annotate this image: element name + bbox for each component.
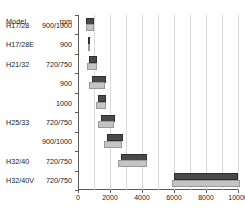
row-label-rpm: 720/750 [0,157,72,166]
gridline [110,15,111,190]
power-range-chart: Model rpm H17/28900/1000H17/28E900H21/32… [0,0,245,211]
x-axis-tick [142,190,143,193]
x-axis-tick-label: 4000 [134,194,150,201]
range-bar-light [104,141,123,148]
x-axis-tick [78,190,79,193]
gridline [222,15,223,190]
range-bar-light [98,121,114,128]
y-axis-tick [75,151,78,152]
x-axis-tick [206,190,207,193]
row-label-rpm: 720/750 [0,60,72,69]
range-bar-light [172,180,239,187]
x-axis-tick [174,190,175,193]
y-axis-tick [75,190,78,191]
y-axis-tick [75,171,78,172]
y-axis-tick [75,112,78,113]
y-axis-tick [75,54,78,55]
y-axis-tick [75,34,78,35]
row-label-rpm: 900 [0,79,72,88]
x-axis-tick-label: 0 [76,194,80,201]
range-bar-light [88,44,90,51]
gridline [206,15,207,190]
y-axis-tick [75,93,78,94]
y-axis-tick [75,73,78,74]
gridline [238,15,239,190]
row-label-rpm: 900/1000 [0,137,72,146]
gridline [174,15,175,190]
x-axis-tick [238,190,239,193]
range-bar-light [89,82,105,89]
gridline [158,15,159,190]
x-axis-tick-label: 8000 [198,194,214,201]
range-bar-light [87,63,97,70]
gridline [94,15,95,190]
x-axis-tick [110,190,111,193]
range-bar-light [96,102,106,109]
row-label-rpm: 900/1000 [0,21,72,30]
row-label-rpm: 900 [0,40,72,49]
x-axis-tick-label: 2000 [102,194,118,201]
x-axis-tick-label: 6000 [166,194,182,201]
row-label-rpm: 720/750 [0,118,72,127]
row-label-rpm: 1000 [0,99,72,108]
y-axis-tick [75,15,78,16]
range-bar-light [86,24,94,31]
plot-area [78,15,238,190]
x-axis-tick-label: 10000 [228,194,245,201]
y-axis-tick [75,132,78,133]
row-label-rpm: 720/750 [0,176,72,185]
range-bar-light [118,160,147,167]
model-rpm-label-table: Model rpm H17/28900/1000H17/28E900H21/32… [0,0,78,211]
gridline [190,15,191,190]
y-axis-line [78,15,79,190]
